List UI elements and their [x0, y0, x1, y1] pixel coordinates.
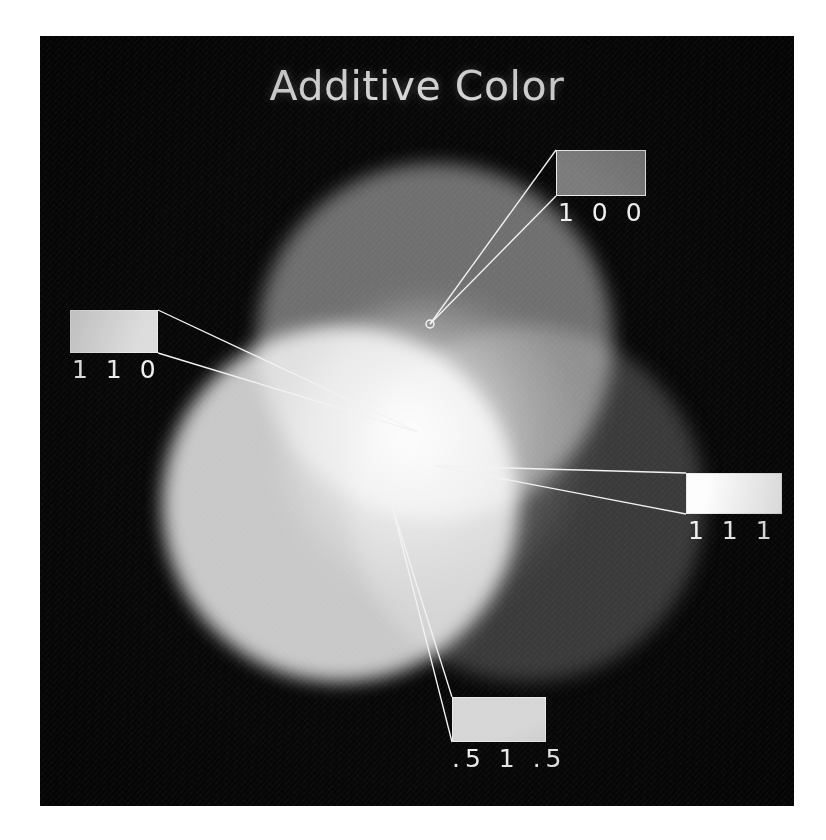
callout-111[interactable]: 1 1 1 — [686, 473, 782, 544]
leader-line — [158, 310, 418, 432]
leader-line — [392, 506, 452, 697]
leader-line-overlay — [40, 36, 794, 806]
figure-canvas: Additive Color 1 0 0 1 1 0 1 1 1 .5 1 .5 — [40, 36, 794, 806]
color-swatch-515 — [452, 697, 546, 742]
color-swatch-111 — [686, 473, 782, 514]
figure-root: Additive Color 1 0 0 1 1 0 1 1 1 .5 1 .5 — [0, 0, 826, 840]
swatch-label-515: .5 1 .5 — [452, 746, 546, 772]
callout-515[interactable]: .5 1 .5 — [452, 697, 546, 772]
color-swatch-100 — [556, 150, 646, 196]
callout-110[interactable]: 1 1 0 — [70, 310, 158, 383]
leader-line — [436, 466, 686, 514]
swatch-label-110: 1 1 0 — [70, 357, 158, 383]
leader-line — [158, 353, 418, 432]
leader-line — [392, 506, 452, 742]
leader-line — [436, 466, 686, 473]
leader-line — [430, 150, 556, 324]
callout-100[interactable]: 1 0 0 — [556, 150, 646, 226]
swatch-label-111: 1 1 1 — [686, 518, 782, 544]
leader-line — [430, 196, 556, 324]
color-swatch-110 — [70, 310, 158, 353]
swatch-label-100: 1 0 0 — [556, 200, 646, 226]
